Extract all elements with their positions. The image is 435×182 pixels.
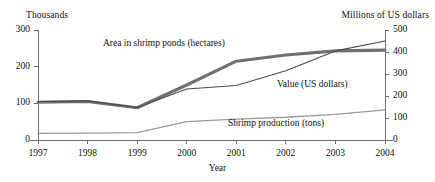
x-axis-tick-label: 2003 [315,148,355,158]
x-axis-tick-label: 1999 [117,148,157,158]
x-axis-tick-label: 2000 [167,148,207,158]
series-label-area-in-shrimp-ponds: Area in shrimp ponds (hectares) [103,38,225,48]
left-axis-tick-label: 200 [4,61,30,71]
x-axis-tick-label: 2001 [216,148,256,158]
x-axis-title: Year [0,163,435,173]
x-axis-tick-label: 1998 [68,148,108,158]
right-axis-tick-label: 300 [393,68,423,78]
right-axis-tick-label: 100 [393,112,423,122]
left-axis-tick-label: 0 [4,134,30,144]
x-axis-tick-label: 2004 [365,148,405,158]
series-line-shrimp-production [38,110,385,133]
right-axis-tick-label: 200 [393,90,423,100]
chart-container: Thousands Millions of US dollars 0100200… [0,0,435,182]
right-axis-tick-label: 400 [393,46,423,56]
left-axis-tick-label: 300 [4,24,30,34]
right-axis-tick-label: 500 [393,24,423,34]
x-axis-tick-label: 2002 [266,148,306,158]
x-axis-tick-label: 1997 [18,148,58,158]
series-label-shrimp-production: Shrimp production (tons) [228,118,324,128]
left-axis-tick-label: 100 [4,97,30,107]
series-label-value: Value (US dollars) [277,79,348,89]
right-axis-tick-label: 0 [393,134,423,144]
